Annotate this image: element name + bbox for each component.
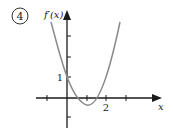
derivative-curve: [51, 22, 120, 105]
problem-number: 4: [17, 10, 24, 23]
y-axis-label: f′(x): [43, 9, 64, 20]
y-tick-label-1: 1: [57, 72, 63, 83]
graph-canvas: 4 f′(x) x 2 1: [0, 0, 173, 131]
x-tick-label-2: 2: [103, 102, 109, 113]
problem-number-badge: 4: [12, 8, 28, 24]
x-axis-label: x: [158, 101, 164, 112]
y-axis-arrow-icon: [63, 10, 71, 20]
